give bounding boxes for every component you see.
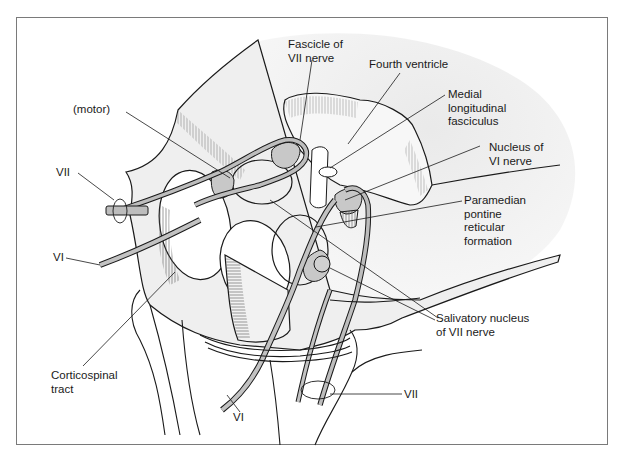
label-salivatory: Salivatory nucleus of VII nerve xyxy=(436,312,529,339)
label-vi-left: VI xyxy=(53,251,64,265)
label-fascicle-vii: Fascicle of VII nerve xyxy=(288,38,343,65)
label-vi-bottom: VI xyxy=(233,411,244,425)
label-vii-bottom: VII xyxy=(404,388,418,402)
label-mlf: Medial longitudinal fasciculus xyxy=(448,88,506,129)
label-pprf: Paramedian pontine reticular formation xyxy=(464,194,526,248)
label-fourth-ventricle: Fourth ventricle xyxy=(369,58,448,72)
label-motor: (motor) xyxy=(73,103,110,117)
salivatory-nucleus-small xyxy=(314,256,330,272)
label-vii-left: VII xyxy=(56,166,70,180)
mlf xyxy=(310,147,328,208)
label-nucleus-vi: Nucleus of VI nerve xyxy=(489,141,543,168)
label-corticospinal: Corticospinal tract xyxy=(51,369,117,396)
